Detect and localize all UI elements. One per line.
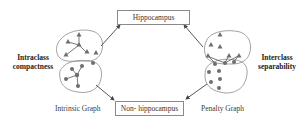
right-circle-nodes <box>207 60 236 90</box>
hippocampus-label: Hippocampus <box>133 13 175 22</box>
arrow-left-to-hippocampus <box>101 25 120 46</box>
arrow-left-to-non-hippocampus <box>96 85 114 100</box>
intraclass-compactness-label: Intraclass compactness <box>8 53 58 71</box>
non-hippocampus-box: Non- hippocampus <box>115 101 184 116</box>
intrinsic-graph-caption: Intrinsic Graph <box>55 104 101 113</box>
interclass-separability-label: Interclass separability <box>252 53 302 71</box>
diagram-canvas: Hippocampus Non- hippocampus Intraclass … <box>0 0 307 121</box>
left-triangle-edges <box>66 35 86 55</box>
arrow-right-to-non-hippocampus <box>186 84 207 99</box>
non-hippocampus-label: Non- hippocampus <box>121 104 178 113</box>
arrows <box>96 25 207 100</box>
left-circle-nodes <box>64 61 95 88</box>
arrow-right-to-hippocampus <box>184 25 203 47</box>
penalty-graph <box>204 31 250 93</box>
hippocampus-box: Hippocampus <box>117 10 190 25</box>
penalty-graph-caption: Penalty Graph <box>201 104 244 113</box>
intrinsic-graph <box>56 30 102 93</box>
